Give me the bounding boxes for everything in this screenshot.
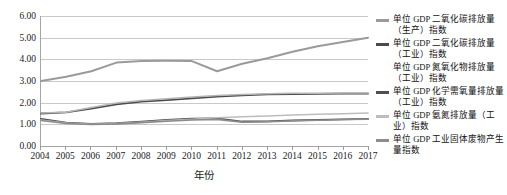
y-tick-label: 1.00 — [19, 119, 36, 129]
legend-item[interactable]: 单位 GDP 化学需氧量排放量（工业）指数 — [376, 86, 507, 107]
legend-color-swatch — [376, 19, 389, 22]
legend-item[interactable]: 单位 GDP 氮氧化物排放量（工业）指数 — [376, 62, 507, 83]
y-tick-label: 3.00 — [19, 76, 36, 86]
series-line-4 — [41, 113, 368, 124]
legend-color-swatch — [376, 67, 389, 70]
x-axis-ticks — [40, 146, 368, 150]
series-line-0 — [41, 38, 368, 81]
plot-area: 0.001.002.003.004.005.006.00 20042005200… — [0, 0, 375, 195]
x-tick — [292, 146, 293, 150]
x-tick-label: 2009 — [157, 151, 176, 161]
legend-item-label: 单位 GDP 化学需氧量排放量（工业）指数 — [393, 86, 507, 107]
y-tick-label: 6.00 — [19, 11, 36, 21]
legend-color-swatch — [376, 91, 389, 94]
x-tick-label: 2004 — [31, 151, 50, 161]
x-tick — [242, 146, 243, 150]
legend-item-label: 单位 GDP 氨氮排放量（工业）指数 — [393, 110, 507, 131]
x-tick-label: 2013 — [258, 151, 277, 161]
x-tick — [368, 146, 369, 150]
series-line-5 — [41, 119, 368, 124]
legend-item-label: 单位 GDP 工业固体废物产生量指数 — [393, 134, 507, 155]
x-tick-label: 2007 — [106, 151, 125, 161]
legend-item-label: 单位 GDP 氮氧化物排放量（工业）指数 — [393, 62, 507, 83]
x-tick — [318, 146, 319, 150]
y-axis-tick-labels: 0.001.002.003.004.005.006.00 — [0, 0, 38, 195]
x-tick — [141, 146, 142, 150]
grid-area — [40, 16, 368, 146]
x-tick — [166, 146, 167, 150]
x-tick-label: 2017 — [359, 151, 378, 161]
x-tick — [40, 146, 41, 150]
x-tick-label: 2006 — [81, 151, 100, 161]
legend-color-swatch — [376, 43, 389, 46]
legend-item-label: 单位 GDP 二氧化碳排放量（工业）指数 — [393, 38, 507, 59]
legend-item[interactable]: 单位 GDP 二氧化碳排放量（工业）指数 — [376, 38, 507, 59]
x-tick — [116, 146, 117, 150]
x-tick-label: 2008 — [131, 151, 150, 161]
x-tick-label: 2012 — [232, 151, 251, 161]
legend-color-swatch — [376, 139, 389, 142]
y-tick-label: 0.00 — [19, 141, 36, 151]
x-tick-label: 2011 — [207, 151, 226, 161]
legend-item-label: 单位 GDP 二氧化碳排放量（生产）指数 — [393, 14, 507, 35]
x-tick — [343, 146, 344, 150]
x-tick-label: 2014 — [283, 151, 302, 161]
y-tick-label: 4.00 — [19, 54, 36, 64]
legend-item[interactable]: 单位 GDP 二氧化碳排放量（生产）指数 — [376, 14, 507, 35]
line-chart: 0.001.002.003.004.005.006.00 20042005200… — [0, 0, 507, 195]
x-tick — [90, 146, 91, 150]
x-axis-tick-labels: 2004200520062007200820092010201120122013… — [40, 151, 368, 165]
chart-legend: 单位 GDP 二氧化碳排放量（生产）指数单位 GDP 二氧化碳排放量（工业）指数… — [376, 14, 507, 158]
legend-item[interactable]: 单位 GDP 工业固体废物产生量指数 — [376, 134, 507, 155]
x-tick-label: 2010 — [182, 151, 201, 161]
series-lines — [41, 16, 368, 146]
x-tick-label: 2005 — [56, 151, 75, 161]
legend-color-swatch — [376, 115, 389, 118]
x-tick-label: 2016 — [333, 151, 352, 161]
x-tick — [191, 146, 192, 150]
x-axis-title: 年份 — [40, 167, 368, 182]
x-tick — [217, 146, 218, 150]
y-tick-label: 5.00 — [19, 33, 36, 43]
series-line-2 — [41, 93, 368, 113]
x-tick-label: 2015 — [308, 151, 327, 161]
legend-item[interactable]: 单位 GDP 氨氮排放量（工业）指数 — [376, 110, 507, 131]
x-tick — [267, 146, 268, 150]
y-tick-label: 2.00 — [19, 98, 36, 108]
x-tick — [65, 146, 66, 150]
